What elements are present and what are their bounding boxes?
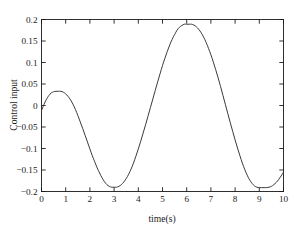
- y-tick-label: −0.1: [21, 144, 38, 154]
- x-tick-label: 8: [233, 194, 238, 204]
- chart-figure: 012345678910 −0.2−0.15−0.1−0.0500.050.10…: [0, 0, 297, 231]
- x-tick-label: 1: [63, 194, 68, 204]
- x-tick-label: 6: [184, 194, 189, 204]
- y-tick-label: −0.2: [21, 187, 38, 197]
- x-tick-label: 9: [257, 194, 262, 204]
- x-tick-label: 4: [136, 194, 141, 204]
- x-tick-label: 10: [279, 194, 289, 204]
- y-tick-label: 0: [33, 101, 38, 111]
- y-tick-label: 0.2: [26, 15, 38, 25]
- x-tick-label: 7: [209, 194, 214, 204]
- x-tick-label: 3: [112, 194, 117, 204]
- y-tick-label: −0.05: [16, 122, 38, 132]
- x-tick-label: 0: [39, 194, 44, 204]
- x-tick-label: 5: [160, 194, 165, 204]
- y-axis-title: Control input: [8, 79, 19, 131]
- control-input-line-chart: 012345678910 −0.2−0.15−0.1−0.0500.050.10…: [0, 0, 297, 231]
- y-tick-label: −0.15: [16, 165, 38, 175]
- y-tick-label: 0.1: [26, 58, 38, 68]
- x-axis-title: time(s): [148, 213, 175, 225]
- y-tick-label: 0.15: [21, 36, 37, 46]
- x-tick-label: 2: [88, 194, 93, 204]
- y-tick-label: 0.05: [21, 79, 37, 89]
